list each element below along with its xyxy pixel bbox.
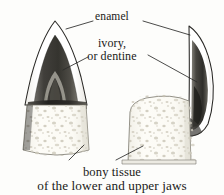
tooth-anatomy-figure: enamel ivory, or dentine bony tissue of … xyxy=(0,0,224,195)
leader-enamel-right xyxy=(143,21,190,35)
left-tooth-group xyxy=(25,21,87,109)
label-ivory-line: ivory, xyxy=(0,37,224,49)
left-bony-tissue-group xyxy=(20,100,94,162)
right-bone-ledge xyxy=(122,160,196,164)
caption-line-1: bony tissue xyxy=(0,166,224,179)
right-bony-tissue-group xyxy=(122,92,200,166)
label-ivory-or-dentine: ivory, or dentine xyxy=(0,37,224,62)
caption-line-2: of the lower and upper jaws xyxy=(0,179,224,192)
label-dentine-line: or dentine xyxy=(0,50,224,62)
label-enamel: enamel xyxy=(0,11,224,23)
figure-caption: bony tissue of the lower and upper jaws xyxy=(0,166,224,192)
